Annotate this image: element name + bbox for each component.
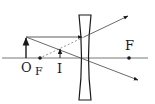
focal-point-left bbox=[38, 56, 42, 60]
focal-point-right bbox=[127, 56, 131, 60]
label-object: O bbox=[21, 60, 32, 75]
label-focus-left: F bbox=[35, 65, 43, 78]
concave-lens-ray-diagram: O F I F bbox=[0, 0, 155, 104]
concave-lens bbox=[79, 15, 91, 100]
label-focus-right: F bbox=[125, 38, 134, 53]
ray-virtual-extension bbox=[40, 37, 84, 58]
label-image: I bbox=[57, 61, 62, 76]
ray-through-center bbox=[26, 37, 138, 80]
